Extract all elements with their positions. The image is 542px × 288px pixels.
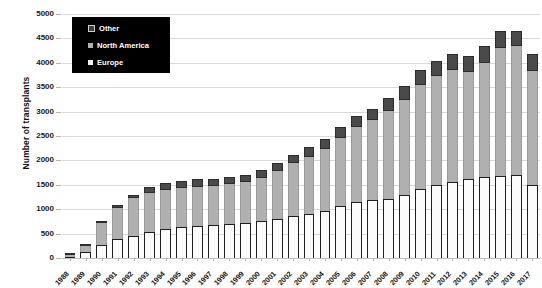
- stacked-bar[interactable]: [463, 56, 474, 259]
- bar-segment-north-america: [288, 163, 299, 216]
- y-tick-mark: [56, 160, 61, 161]
- stacked-bar[interactable]: [431, 61, 442, 258]
- stacked-bar[interactable]: [256, 170, 267, 258]
- stacked-bar[interactable]: [272, 163, 283, 258]
- stacked-bar[interactable]: [399, 86, 410, 258]
- bar-column[interactable]: [381, 14, 397, 258]
- y-tick-mark: [56, 234, 61, 235]
- stacked-bar[interactable]: [415, 70, 426, 258]
- y-tick-mark: [56, 14, 61, 15]
- bar-segment-other: [224, 177, 235, 184]
- stacked-bar[interactable]: [479, 46, 490, 258]
- bar-segment-north-america: [256, 178, 267, 221]
- bar-segment-europe: [176, 227, 187, 258]
- stacked-bar[interactable]: [112, 205, 123, 258]
- stacked-bar-chart: Number of transplants 050010001500200025…: [0, 0, 542, 288]
- bar-segment-other: [479, 46, 490, 63]
- bar-column[interactable]: [205, 14, 221, 258]
- bar-segment-other: [351, 116, 362, 128]
- legend-item-north-america[interactable]: North America: [88, 37, 170, 54]
- legend-item-other[interactable]: Other: [88, 20, 170, 37]
- bar-column[interactable]: [317, 14, 333, 258]
- bar-column[interactable]: [476, 14, 492, 258]
- stacked-bar[interactable]: [527, 54, 538, 258]
- bar-column[interactable]: [365, 14, 381, 258]
- bar-column[interactable]: [492, 14, 508, 258]
- stacked-bar[interactable]: [447, 54, 458, 258]
- bar-column[interactable]: [190, 14, 206, 258]
- bar-column[interactable]: [269, 14, 285, 258]
- bar-column[interactable]: [174, 14, 190, 258]
- stacked-bar[interactable]: [160, 183, 171, 258]
- x-tick-mark: [261, 258, 262, 261]
- stacked-bar[interactable]: [367, 109, 378, 258]
- x-tick-mark: [118, 258, 119, 261]
- legend-label-europe: Europe: [97, 58, 123, 67]
- bar-column[interactable]: [397, 14, 413, 258]
- bar-segment-europe: [463, 179, 474, 258]
- bar-segment-europe: [447, 182, 458, 258]
- stacked-bar[interactable]: [240, 175, 251, 258]
- stacked-bar[interactable]: [96, 221, 107, 258]
- x-tick: 2017: [524, 260, 540, 288]
- bar-column[interactable]: [445, 14, 461, 258]
- legend-item-europe[interactable]: Europe: [88, 54, 170, 71]
- y-tick-label: 2000: [2, 155, 54, 164]
- bar-segment-north-america: [495, 48, 506, 176]
- x-tick-mark: [437, 258, 438, 261]
- bar-segment-north-america: [112, 208, 123, 239]
- bar-segment-other: [208, 179, 219, 186]
- y-tick-mark: [56, 38, 61, 39]
- bar-segment-north-america: [463, 72, 474, 179]
- bar-segment-other: [304, 147, 315, 156]
- bar-segment-europe: [415, 189, 426, 258]
- bar-column[interactable]: [429, 14, 445, 258]
- bar-column[interactable]: [301, 14, 317, 258]
- stacked-bar[interactable]: [176, 181, 187, 258]
- stacked-bar[interactable]: [511, 31, 522, 258]
- stacked-bar[interactable]: [495, 31, 506, 258]
- stacked-bar[interactable]: [208, 179, 219, 258]
- stacked-bar[interactable]: [351, 116, 362, 258]
- x-tick-mark: [102, 258, 103, 261]
- stacked-bar[interactable]: [128, 195, 139, 258]
- y-tick-mark: [56, 63, 61, 64]
- stacked-bar[interactable]: [192, 179, 203, 258]
- bar-segment-other: [527, 54, 538, 71]
- bar-segment-europe: [128, 236, 139, 258]
- y-tick-mark: [56, 87, 61, 88]
- bar-column[interactable]: [237, 14, 253, 258]
- bar-column[interactable]: [253, 14, 269, 258]
- x-tick-mark: [341, 258, 342, 261]
- y-tick-label: 500: [2, 229, 54, 238]
- stacked-bar[interactable]: [383, 98, 394, 258]
- stacked-bar[interactable]: [335, 127, 346, 258]
- chart-legend: Other North America Europe: [72, 17, 170, 73]
- bar-segment-north-america: [96, 223, 107, 245]
- stacked-bar[interactable]: [320, 139, 331, 258]
- stacked-bar[interactable]: [80, 244, 91, 258]
- stacked-bar[interactable]: [144, 187, 155, 258]
- x-tick-mark: [389, 258, 390, 261]
- stacked-bar[interactable]: [224, 177, 235, 258]
- x-tick-mark: [421, 258, 422, 261]
- bar-segment-europe: [112, 239, 123, 258]
- x-tick-mark: [150, 258, 151, 261]
- x-tick-mark: [357, 258, 358, 261]
- bar-column[interactable]: [333, 14, 349, 258]
- bar-column[interactable]: [413, 14, 429, 258]
- stacked-bar[interactable]: [288, 155, 299, 258]
- bar-column[interactable]: [460, 14, 476, 258]
- bar-column[interactable]: [221, 14, 237, 258]
- bar-column[interactable]: [285, 14, 301, 258]
- bar-column[interactable]: [349, 14, 365, 258]
- bar-column[interactable]: [508, 14, 524, 258]
- x-tick-mark: [293, 258, 294, 261]
- bar-segment-other: [383, 98, 394, 111]
- bar-segment-other: [256, 170, 267, 178]
- stacked-bar[interactable]: [304, 147, 315, 258]
- bar-segment-europe: [527, 185, 538, 258]
- y-tick-label: 1500: [2, 180, 54, 189]
- bar-column[interactable]: [524, 14, 540, 258]
- x-tick-mark: [373, 258, 374, 261]
